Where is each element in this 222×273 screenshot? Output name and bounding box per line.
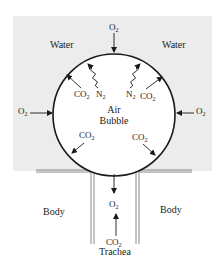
trachea-label: Trachea — [99, 246, 131, 257]
body-label-right: Body — [160, 204, 182, 215]
trachea-wall-left — [91, 170, 94, 244]
water-label-left: Water — [50, 39, 74, 50]
body-label-left: Body — [43, 206, 65, 217]
water-label-right: Water — [162, 39, 186, 50]
air-bubble-gas-exchange-diagram: Water Water Air Bubble Body Body Trachea… — [0, 0, 222, 273]
co2-trachea-label: CO2 — [106, 237, 122, 248]
bubble-label: Bubble — [100, 115, 129, 126]
air-label: Air — [107, 104, 121, 115]
o2-trachea-label: O2 — [109, 199, 119, 210]
trachea-wall-right — [136, 170, 139, 244]
